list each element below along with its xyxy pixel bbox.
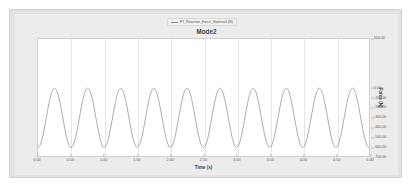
y-tick-mark [371,117,374,118]
y-tick-mark [371,157,374,158]
x-tick-label: 4.50 [333,157,340,163]
x-tick-mark [303,154,304,157]
series-line-path [38,88,369,147]
plot-area[interactable] [37,38,370,157]
x-tick-label: 2.50 [200,157,207,163]
legend-line-swatch-icon [171,22,178,23]
x-tick-mark [237,154,238,157]
x-tick-mark [137,154,138,157]
x-tick-label: 3.00 [233,157,240,163]
x-tick-mark [70,154,71,157]
y-tick-mark [371,98,374,99]
x-tick-label: 0.50 [67,157,74,163]
chart-panel: FY_Reaction_Force_Nastran1 (N) Mode2 0.0… [15,14,398,175]
x-tick-label: 1.00 [100,157,107,163]
x-tick-mark [270,154,271,157]
x-tick-label: 0.00 [33,157,40,163]
x-tick-mark [37,154,38,157]
x-tick-mark [203,154,204,157]
x-axis-title: Time (s) [37,164,370,171]
chart-title: Mode2 [15,28,398,36]
legend-series-label: FY_Reaction_Force_Nastran1 (N) [180,20,233,24]
y-tick-mark [371,107,374,108]
chart-widget: FY_Reaction_Force_Nastran1 (N) Mode2 0.0… [9,9,402,178]
x-tick-label: 2.00 [166,157,173,163]
series-plot [38,39,369,157]
y-tick-mark [371,147,374,148]
x-tick-label: 3.50 [266,157,273,163]
y-axis-title: Force (N) [375,38,385,157]
y-tick-mark [371,137,374,138]
x-tick-mark [170,154,171,157]
y-tick-mark [371,38,374,39]
x-tick-label: 1.50 [133,157,140,163]
x-tick-label: 4.00 [300,157,307,163]
x-tick-mark [104,154,105,157]
y-tick-mark [371,88,374,89]
chart-legend[interactable]: FY_Reaction_Force_Nastran1 (N) [167,18,237,26]
y-tick-mark [371,127,374,128]
x-tick-mark [337,154,338,157]
